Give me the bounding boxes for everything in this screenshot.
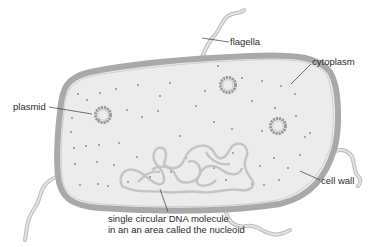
label-dna-line1: single circular DNA molecule xyxy=(108,213,229,224)
label-flagella: flagella xyxy=(230,36,260,47)
bacterial-cell-diagram: flagella cytoplasm plasmid cell wall sin… xyxy=(0,0,372,247)
label-dna-line2: in an an area called the nucleoid xyxy=(108,224,245,235)
label-cell-wall: cell wall xyxy=(321,175,354,186)
label-cytoplasm: cytoplasm xyxy=(312,56,355,67)
label-plasmid: plasmid xyxy=(13,101,46,112)
